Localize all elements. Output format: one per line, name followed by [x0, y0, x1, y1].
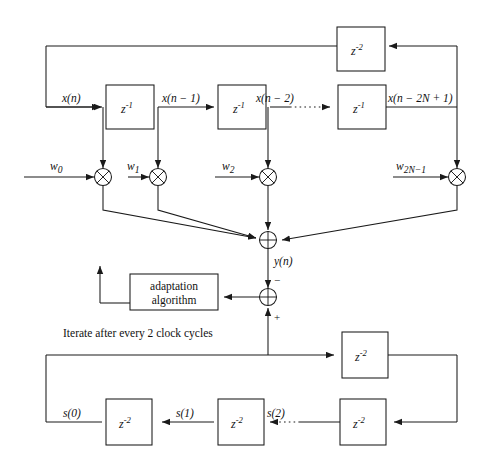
- signal-label-s0: s(0): [63, 408, 81, 420]
- signal-label-xlast: x(n − 2N + 1): [388, 93, 453, 105]
- block-label-d1: z-1: [121, 100, 133, 117]
- error-node-plus-sign: +: [274, 311, 280, 323]
- block-label-fb-delay: z-2: [351, 42, 363, 59]
- block-label-s1: z-2: [231, 415, 243, 432]
- block-label-d3: z-1: [353, 100, 365, 117]
- tap-drops: [103, 107, 457, 168]
- weight-label-w2n1: w2N−1: [396, 161, 426, 175]
- weight-update-path: [100, 266, 130, 303]
- weight-label-w1: w1: [127, 161, 139, 175]
- signal-label-x0: x(n): [62, 93, 81, 105]
- signal-label-s1: s(1): [176, 408, 194, 420]
- block-label-s2: z-2: [353, 415, 365, 432]
- block-label-s-in: z-2: [355, 348, 367, 365]
- product-routing: [103, 186, 457, 240]
- error-node-minus-sign: −: [274, 274, 280, 286]
- weight-label-w0: w0: [50, 161, 62, 175]
- block-diagram-canvas: z-2 z-1 z-1 z-1 x(n) x(n − 1) x(n − 2) x…: [0, 0, 484, 465]
- adaptation-line-1: adaptation: [130, 279, 218, 293]
- signal-label-s2: s(2): [267, 408, 285, 420]
- signal-label-x2: x(n − 2): [256, 93, 294, 105]
- diagram-vector-layer: [0, 0, 484, 465]
- adaptation-line-2: algorithm: [130, 293, 218, 307]
- signal-label-x1: x(n − 1): [162, 93, 200, 105]
- adaptation-block-label: adaptation algorithm: [130, 279, 218, 308]
- iterate-caption: Iterate after every 2 clock cycles: [63, 327, 213, 339]
- block-label-s0: z-2: [119, 415, 131, 432]
- output-label-yn: y(n): [274, 256, 293, 268]
- block-label-d2: z-1: [233, 100, 245, 117]
- weight-label-w2: w2: [222, 161, 234, 175]
